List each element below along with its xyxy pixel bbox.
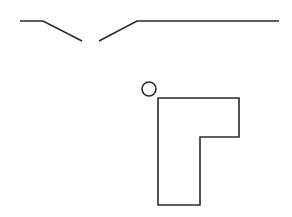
- small-circle: [142, 82, 156, 96]
- line-diagram: [0, 0, 292, 217]
- right-bent-line: [99, 21, 279, 41]
- left-bent-line: [20, 21, 82, 41]
- l-shaped-outline: [158, 98, 239, 205]
